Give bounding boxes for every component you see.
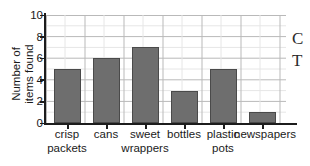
x-label-crisp-packets: crisp packets (47, 128, 87, 155)
cut-off-side-text-line-2: T (292, 50, 303, 72)
bar-cans (93, 58, 120, 123)
x-label-bottles: bottles (167, 128, 201, 142)
x-axis-line (44, 123, 297, 125)
cut-off-side-text-line-1: C (292, 28, 303, 50)
x-label-line: packets (47, 142, 87, 156)
bar-crisp-packets (54, 69, 81, 123)
x-label-line: sweet (121, 128, 168, 142)
x-label-line: cans (94, 128, 118, 142)
x-label-cans: cans (94, 128, 118, 142)
y-tick-mark (40, 58, 44, 60)
x-axis-category-labels: crisp packets cans sweet wrappers bottle… (46, 128, 296, 164)
bar-sweet-wrappers (132, 47, 159, 123)
x-label-line: crisp (47, 128, 87, 142)
y-axis-title-line-1: Number of (10, 47, 23, 101)
bar-chart: Number of items found 0 2 4 6 8 10 (0, 0, 310, 166)
y-tick-mark (40, 15, 44, 17)
y-tick-mark (40, 79, 44, 81)
x-label-line: pots (207, 142, 240, 156)
x-label-line: wrappers (121, 142, 168, 156)
bar-bottles (171, 91, 198, 123)
x-label-newspapers: newspapers (234, 128, 296, 142)
plot-area (46, 15, 286, 123)
x-label-line: bottles (167, 128, 201, 142)
x-label-line: newspapers (234, 128, 296, 142)
y-axis-tick-labels: 0 2 4 6 8 10 (27, 15, 43, 123)
y-tick-mark (40, 36, 44, 38)
bar-newspapers (249, 112, 276, 123)
y-tick-mark (40, 123, 44, 125)
bar-plastic-pots (210, 69, 237, 123)
x-label-sweet-wrappers: sweet wrappers (121, 128, 168, 155)
cut-off-side-text: C T (292, 28, 303, 72)
y-axis-line (44, 13, 46, 125)
y-tick-mark (40, 101, 44, 103)
gridlines (46, 15, 286, 123)
